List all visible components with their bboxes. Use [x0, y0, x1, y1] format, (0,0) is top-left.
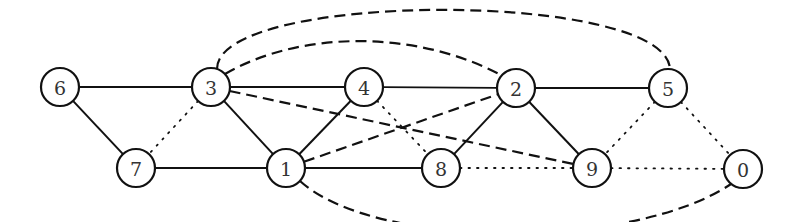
edge-4-2-solid: [383, 87, 497, 88]
edge-1-0-dashed: [300, 181, 731, 222]
node-label: 3: [205, 77, 217, 99]
node-label: 1: [280, 158, 292, 180]
node-8: 8: [422, 149, 460, 187]
node-label: 9: [586, 158, 598, 180]
edge-6-7-solid: [73, 101, 123, 154]
edge-3-1-solid: [224, 101, 273, 154]
node-5: 5: [649, 69, 687, 107]
node-label: 8: [435, 158, 447, 180]
node-label: 4: [358, 77, 370, 99]
edge-1-2-dashed: [304, 94, 498, 162]
node-1: 1: [267, 149, 305, 187]
node-2: 2: [497, 69, 535, 107]
edge-3-7-dotted: [149, 101, 198, 154]
edge-3-5-dashed: [217, 10, 670, 70]
node-label: 7: [130, 158, 142, 180]
node-label: 5: [662, 78, 674, 100]
node-4: 4: [345, 68, 383, 106]
edge-9-0-dotted: [611, 168, 724, 169]
node-7: 7: [117, 149, 155, 187]
edge-5-9-dotted: [605, 102, 655, 154]
node-3: 3: [192, 68, 230, 106]
edge-8-2-solid: [454, 102, 503, 154]
node-6: 6: [41, 68, 79, 106]
edge-2-9-solid: [529, 102, 579, 154]
edge-5-0-dotted: [681, 102, 730, 155]
node-label: 0: [737, 159, 749, 181]
node-9: 9: [573, 149, 611, 187]
node-0: 0: [724, 150, 762, 188]
edge-1-4-solid: [299, 101, 351, 155]
node-label: 6: [54, 77, 66, 99]
graph-diagram: 6342571890: [0, 0, 802, 222]
node-label: 2: [510, 78, 522, 100]
edges-layer: [73, 10, 731, 222]
